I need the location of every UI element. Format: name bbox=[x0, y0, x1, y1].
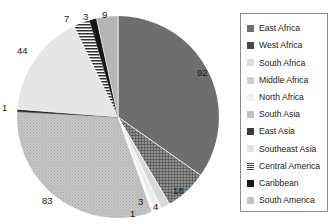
pie-value-label-east-africa: 92 bbox=[197, 68, 208, 78]
legend-swatch-south-asia bbox=[247, 111, 254, 118]
legend-label-southeast-asia: Southeast Asia bbox=[259, 145, 316, 154]
legend-list: East Africa West Africa South Africa Mid… bbox=[241, 20, 327, 209]
legend-swatch-central-america bbox=[247, 163, 254, 170]
legend-item-west-africa[interactable]: West Africa bbox=[241, 37, 327, 54]
legend-swatch-southeast-asia bbox=[247, 145, 254, 152]
pie-value-label-east-asia: 1 bbox=[2, 103, 7, 113]
legend-label-north-africa: North Africa bbox=[259, 93, 304, 102]
pie-value-label-south-america: 9 bbox=[102, 10, 107, 20]
legend-label-east-africa: East Africa bbox=[259, 24, 300, 33]
pie-value-label-central-america: 7 bbox=[64, 14, 69, 24]
legend-label-south-asia: South Asia bbox=[259, 110, 300, 119]
pie-slice-group bbox=[10, 9, 226, 224]
legend-swatch-west-africa bbox=[247, 42, 254, 49]
legend-label-south-africa: South Africa bbox=[259, 59, 305, 68]
legend-label-south-america: South America bbox=[259, 196, 315, 205]
pie-svg bbox=[0, 0, 236, 224]
legend-item-middle-africa[interactable]: Middle Africa bbox=[241, 72, 327, 89]
pie-value-label-middle-africa: 3 bbox=[138, 197, 143, 207]
legend-label-central-america: Central America bbox=[259, 162, 320, 171]
legend-swatch-south-africa bbox=[247, 59, 254, 66]
legend-swatch-east-africa bbox=[247, 25, 254, 32]
legend-item-central-america[interactable]: Central America bbox=[241, 158, 327, 175]
legend-swatch-east-asia bbox=[247, 128, 254, 135]
pie-value-label-caribbean: 3 bbox=[83, 12, 88, 22]
legend-label-east-asia: East Asia bbox=[259, 127, 295, 136]
pie-plot-area: 92 18 4 3 1 83 1 44 7 3 9 bbox=[0, 0, 236, 224]
pie-value-label-north-africa: 1 bbox=[130, 209, 135, 219]
legend-item-east-africa[interactable]: East Africa bbox=[241, 20, 327, 37]
pie-value-label-west-africa: 18 bbox=[173, 186, 184, 196]
pie-value-label-southeast-asia: 44 bbox=[17, 46, 28, 56]
legend-swatch-south-america bbox=[247, 197, 254, 204]
pie-value-label-south-asia: 83 bbox=[42, 196, 53, 206]
legend-item-southeast-asia[interactable]: Southeast Asia bbox=[241, 140, 327, 157]
legend-item-south-africa[interactable]: South Africa bbox=[241, 54, 327, 71]
legend-swatch-north-africa bbox=[247, 94, 254, 101]
legend-item-east-asia[interactable]: East Asia bbox=[241, 123, 327, 140]
legend-item-north-africa[interactable]: North Africa bbox=[241, 89, 327, 106]
legend-label-west-africa: West Africa bbox=[259, 41, 302, 50]
legend-label-caribbean: Caribbean bbox=[259, 179, 299, 188]
legend-item-caribbean[interactable]: Caribbean bbox=[241, 175, 327, 192]
legend-swatch-middle-africa bbox=[247, 77, 254, 84]
legend-label-middle-africa: Middle Africa bbox=[259, 76, 308, 85]
legend-item-south-america[interactable]: South America bbox=[241, 192, 327, 209]
legend-item-south-asia[interactable]: South Asia bbox=[241, 106, 327, 123]
legend: East Africa West Africa South Africa Mid… bbox=[240, 13, 328, 212]
pie-value-label-south-africa: 4 bbox=[153, 202, 158, 212]
legend-swatch-caribbean bbox=[247, 180, 254, 187]
pie-chart-figure: 92 18 4 3 1 83 1 44 7 3 9 East Africa We… bbox=[0, 0, 331, 224]
